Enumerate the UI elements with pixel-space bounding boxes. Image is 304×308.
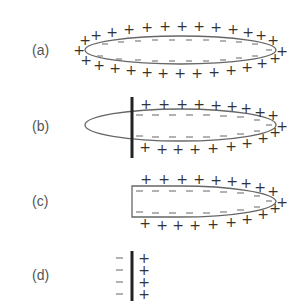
- svg-text:+: +: [254, 104, 266, 120]
- svg-text:+: +: [176, 96, 188, 112]
- svg-text:+: +: [191, 65, 203, 81]
- panel-d-plus-charges: + + + +: [138, 250, 150, 302]
- svg-text:+: +: [254, 179, 266, 195]
- panel-b-minus-charges: [136, 115, 272, 137]
- svg-text:+: +: [255, 27, 267, 43]
- charge-diagram: +++ +++ +++ +++ + ++ +++ +++ +++ +++ +: [0, 0, 304, 308]
- svg-text:+: +: [225, 214, 237, 230]
- svg-text:+: +: [240, 100, 252, 116]
- panel-b-plus-charges: +++ +++ +++ + +++ +++ +++: [139, 96, 288, 157]
- svg-text:+: +: [158, 96, 170, 112]
- svg-text:+: +: [241, 59, 253, 75]
- svg-text:+: +: [140, 171, 152, 187]
- panel-b-ellipse: +++ +++ +++ + +++ +++ +++: [85, 96, 288, 158]
- svg-text:+: +: [226, 173, 238, 189]
- svg-text:+: +: [158, 171, 170, 187]
- svg-text:+: +: [156, 141, 168, 157]
- svg-text:+: +: [139, 139, 151, 155]
- svg-text:+: +: [257, 130, 269, 146]
- svg-text:+: +: [241, 135, 253, 151]
- svg-text:+: +: [226, 98, 238, 114]
- svg-text:+: +: [208, 64, 220, 80]
- panel-a-minus-charges: [97, 40, 272, 61]
- svg-text:+: +: [174, 65, 186, 81]
- svg-text:+: +: [139, 215, 151, 231]
- panel-c-truncated: +++ +++ +++ + +++ +++ +++: [132, 171, 288, 233]
- svg-text:+: +: [210, 172, 222, 188]
- panel-d-minus-charges: [116, 258, 123, 294]
- svg-text:+: +: [80, 52, 92, 68]
- svg-text:+: +: [269, 50, 281, 66]
- svg-text:+: +: [176, 18, 188, 34]
- svg-text:+: +: [141, 64, 153, 80]
- svg-text:+: +: [193, 171, 205, 187]
- panel-a-plus-charges: +++ +++ +++ +++ + ++ +++ +++ +++ +++ +: [73, 18, 288, 81]
- svg-text:+: +: [242, 24, 254, 40]
- svg-text:+: +: [240, 175, 252, 191]
- panel-c-plus-charges: +++ +++ +++ + +++ +++ +++: [139, 171, 288, 233]
- svg-text:+: +: [269, 124, 281, 140]
- svg-text:+: +: [157, 65, 169, 81]
- svg-text:+: +: [210, 19, 222, 35]
- svg-text:+: +: [257, 206, 269, 222]
- svg-text:+: +: [189, 141, 201, 157]
- svg-text:+: +: [90, 27, 102, 43]
- panel-d-double-layer: + + + +: [116, 250, 150, 302]
- svg-text:+: +: [225, 62, 237, 78]
- svg-text:+: +: [207, 140, 219, 156]
- svg-text:+: +: [109, 60, 121, 76]
- svg-text:+: +: [193, 96, 205, 112]
- svg-text:+: +: [241, 211, 253, 227]
- svg-text:+: +: [176, 171, 188, 187]
- svg-text:+: +: [172, 217, 184, 233]
- svg-text:+: +: [159, 18, 171, 34]
- svg-text:+: +: [125, 62, 137, 78]
- svg-text:+: +: [93, 57, 105, 73]
- panel-a-ellipse: +++ +++ +++ +++ + ++ +++ +++ +++ +++ +: [73, 18, 288, 81]
- panel-c-minus-charges: [136, 191, 272, 213]
- svg-text:+: +: [256, 55, 268, 71]
- svg-text:+: +: [123, 21, 135, 37]
- svg-text:+: +: [269, 200, 281, 216]
- svg-text:+: +: [210, 97, 222, 113]
- svg-text:+: +: [227, 21, 239, 37]
- svg-text:+: +: [172, 141, 184, 157]
- svg-text:+: +: [207, 216, 219, 232]
- svg-text:+: +: [225, 138, 237, 154]
- svg-text:+: +: [140, 96, 152, 112]
- svg-text:+: +: [138, 286, 150, 302]
- svg-text:+: +: [141, 19, 153, 35]
- svg-text:+: +: [189, 217, 201, 233]
- svg-text:+: +: [156, 217, 168, 233]
- svg-text:+: +: [193, 18, 205, 34]
- svg-text:+: +: [106, 24, 118, 40]
